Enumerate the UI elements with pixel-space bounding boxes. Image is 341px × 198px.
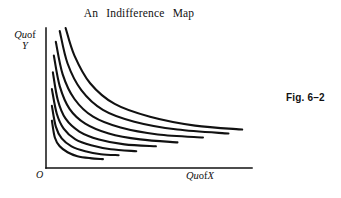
origin-label: O — [36, 170, 43, 181]
indifference-map-figure: An Indifference Map Quof Y QuofX O Fig. … — [0, 0, 341, 198]
y-axis-label: Quof Y — [8, 29, 42, 52]
origin-label-text: O — [36, 169, 43, 180]
y-axis-label-variable: Y — [22, 40, 28, 51]
indifference-curve — [66, 28, 243, 130]
y-axis-label-of: of — [27, 29, 36, 40]
y-axis-label-quantity: Qu — [14, 29, 27, 40]
indifference-curve — [54, 56, 178, 143]
x-axis-label: QuofX — [186, 170, 214, 181]
figure-caption: Fig. 6–2 — [286, 92, 325, 103]
x-axis-label-variable: X — [208, 170, 214, 181]
x-axis-label-quantity: Qu — [186, 170, 199, 181]
indifference-curve — [60, 31, 229, 134]
x-axis-label-of: of — [199, 170, 208, 181]
indifference-curves-group — [52, 28, 242, 159]
